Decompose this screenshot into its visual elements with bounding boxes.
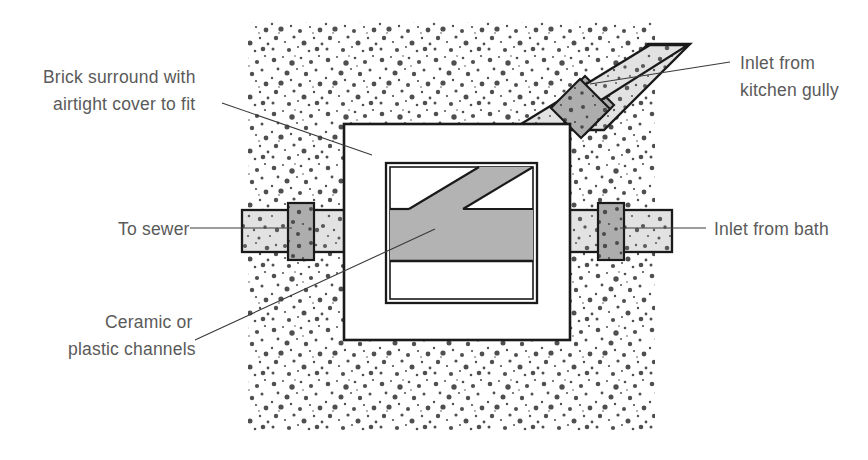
label-ceramic-line2: plastic channels [68,339,196,359]
label-inlet-bath: Inlet from bath [714,219,829,239]
bath-pipe-collar [598,203,624,260]
inspection-chamber-diagram: Brick surround with airtight cover to fi… [0,0,868,460]
main-channel-fill [390,209,533,261]
label-ceramic-channels: Ceramic or plastic channels [68,312,196,359]
sewer-pipe-collar [288,203,314,260]
label-brick-surround-line2: airtight cover to fit [53,94,195,114]
label-ceramic-line1: Ceramic or [105,312,193,332]
label-inlet-kitchen-gully: Inlet from kitchen gully [740,53,839,100]
label-to-sewer: To sewer [118,219,190,239]
label-brick-surround: Brick surround with airtight cover to fi… [43,67,196,114]
pipe-from-bath [568,203,672,260]
label-inlet-kitchen-line2: kitchen gully [740,80,839,100]
pipe-to-sewer [242,203,346,260]
diagram-canvas: Brick surround with airtight cover to fi… [0,0,868,460]
label-brick-surround-line1: Brick surround with [43,67,196,87]
label-inlet-kitchen-line1: Inlet from [740,53,815,73]
